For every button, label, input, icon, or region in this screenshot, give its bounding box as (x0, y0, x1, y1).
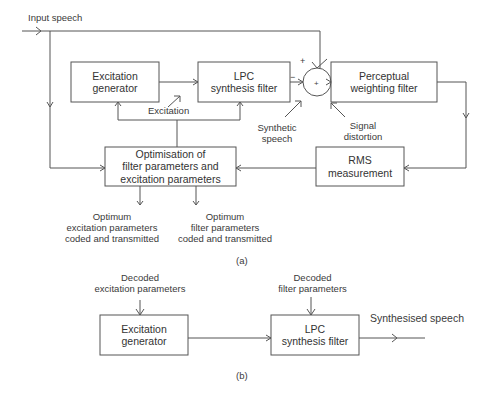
synthetic-speech-line-2: speech (252, 133, 302, 144)
lpc-text-2: synthesis filter (211, 82, 278, 95)
synthetic-speech-label: Synthetic speech (252, 122, 302, 144)
lpc-filter-block: LPC synthesis filter (198, 62, 290, 102)
b-excitation-text-2: generator (122, 335, 167, 348)
synthetic-speech-line-1: Synthetic (252, 122, 302, 133)
optimum-excitation-line-2: excitation parameters (62, 222, 162, 233)
decoded-filter-line-2: filter parameters (265, 283, 360, 294)
signal-distortion-line-1: Signal (338, 120, 388, 131)
perceptual-text-2: weighting filter (350, 82, 417, 95)
b-lpc-text-1: LPC (305, 323, 325, 336)
summer-plus-top: + (300, 56, 305, 67)
summer-minus-left: − (290, 72, 295, 83)
b-excitation-generator-block: Excitation generator (100, 315, 188, 355)
optimisation-text-2: filter parameters and (122, 160, 218, 173)
perceptual-text-1: Perceptual (359, 70, 409, 83)
optimum-excitation-label: Optimum excitation parameters coded and … (62, 211, 162, 244)
lpc-text-1: LPC (234, 70, 254, 83)
optimum-filter-label: Optimum filter parameters coded and tran… (175, 211, 275, 244)
excitation-generator-text-1: Excitation (92, 70, 138, 83)
synthesised-speech-label: Synthesised speech (370, 313, 464, 324)
caption-a: (a) (236, 255, 248, 266)
optimum-excitation-line-3: coded and transmitted (62, 233, 162, 244)
b-lpc-text-2: synthesis filter (282, 335, 349, 348)
optimisation-block: Optimisation of filter parameters and ex… (105, 147, 236, 186)
diagram-lines (0, 0, 482, 401)
signal-distortion-label: Signal distortion (338, 120, 388, 142)
rms-text-2: measurement (328, 167, 392, 180)
rms-block: RMS measurement (316, 147, 404, 186)
b-excitation-text-1: Excitation (121, 323, 167, 336)
optimum-filter-line-2: filter parameters (175, 222, 275, 233)
summer-plus-center: + (314, 78, 319, 89)
decoded-filter-line-1: Decoded (265, 272, 360, 283)
optimum-excitation-line-1: Optimum (62, 211, 162, 222)
b-lpc-filter-block: LPC synthesis filter (271, 315, 359, 355)
excitation-generator-block: Excitation generator (71, 62, 159, 102)
input-speech-label: Input speech (28, 12, 82, 23)
decoded-excitation-label: Decoded excitation parameters (85, 272, 195, 294)
excitation-generator-text-2: generator (93, 82, 138, 95)
decoded-filter-label: Decoded filter parameters (265, 272, 360, 294)
rms-text-1: RMS (348, 154, 371, 167)
optimum-filter-line-3: coded and transmitted (175, 233, 275, 244)
decoded-excitation-line-1: Decoded (85, 272, 195, 283)
optimum-filter-line-1: Optimum (175, 211, 275, 222)
signal-distortion-line-2: distortion (338, 131, 388, 142)
caption-b: (b) (236, 370, 248, 381)
excitation-label: Excitation (148, 105, 189, 116)
decoded-excitation-line-2: excitation parameters (85, 283, 195, 294)
optimisation-text-1: Optimisation of (135, 148, 205, 161)
optimisation-text-3: excitation parameters (120, 173, 220, 186)
perceptual-filter-block: Perceptual weighting filter (331, 62, 437, 102)
